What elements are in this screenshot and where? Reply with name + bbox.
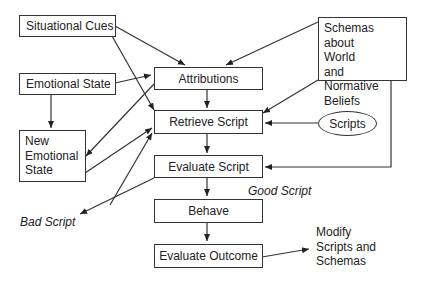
good-script-label: Good Script xyxy=(248,184,311,198)
evaluate-outcome-label: Evaluate Outcome xyxy=(159,249,258,263)
scripts-label: Scripts xyxy=(329,117,366,131)
emotional-state-node: Emotional State xyxy=(19,73,116,95)
modify-line-2: Scripts and xyxy=(316,240,376,255)
new-emotional-state-line-3: State xyxy=(25,163,80,178)
new-emotional-state-node: New Emotional State xyxy=(19,130,86,182)
modify-scripts-schemas-label: Modify Scripts and Schemas xyxy=(316,225,376,269)
new-emotional-state-line-2: Emotional xyxy=(25,149,80,164)
new-emotional-state-line-1: New xyxy=(25,134,80,149)
evaluate-script-label: Evaluate Script xyxy=(168,160,249,174)
emotional-state-label: Emotional State xyxy=(26,77,111,91)
schemas-line-2: World xyxy=(324,50,401,65)
bad-script-label: Bad Script xyxy=(20,215,75,229)
situational-cues-node: Situational Cues xyxy=(19,15,116,37)
retrieve-script-node: Retrieve Script xyxy=(154,110,263,134)
attributions-node: Attributions xyxy=(154,67,263,90)
modify-line-3: Schemas xyxy=(316,254,376,269)
evaluate-outcome-node: Evaluate Outcome xyxy=(154,244,263,268)
behave-node: Behave xyxy=(154,199,263,223)
scripts-node: Scripts xyxy=(318,111,377,136)
schemas-node: Schemas about World and Normative Belief… xyxy=(318,17,407,81)
situational-cues-label: Situational Cues xyxy=(26,19,113,33)
attributions-label: Attributions xyxy=(178,72,238,86)
schemas-line-3: and Normative xyxy=(324,65,401,94)
evaluate-script-node: Evaluate Script xyxy=(154,155,263,178)
behave-label: Behave xyxy=(188,204,229,218)
retrieve-script-label: Retrieve Script xyxy=(169,115,248,129)
schemas-line-1: Schemas about xyxy=(324,21,401,50)
schemas-line-4: Beliefs xyxy=(324,94,401,109)
modify-line-1: Modify xyxy=(316,225,376,240)
